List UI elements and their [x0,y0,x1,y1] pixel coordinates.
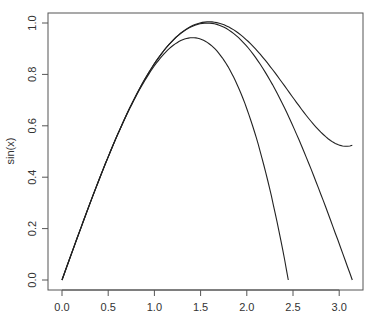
x-tick-label: 2.0 [239,301,254,313]
y-axis-label: sin(x) [4,138,16,165]
y-tick-label: 0.6 [26,118,38,133]
y-tick-label: 0.0 [26,272,38,287]
x-tick-label: 1.5 [193,301,208,313]
chart-canvas: 0.00.51.01.52.02.53.0 0.00.20.40.60.81.0… [0,0,373,328]
x-tick-label: 0.0 [54,301,69,313]
taylor-order3-curve [62,38,288,280]
y-tick-label: 0.8 [26,67,38,82]
x-tick-label: 3.0 [332,301,347,313]
y-tick-label: 1.0 [26,15,38,30]
y-axis: 0.00.20.40.60.81.0 [26,15,48,287]
x-tick-label: 2.5 [285,301,300,313]
y-tick-label: 0.2 [26,221,38,236]
x-tick-label: 1.0 [147,301,162,313]
sin-curve [62,23,352,280]
x-tick-label: 0.5 [101,301,116,313]
plot-frame [48,13,363,290]
taylor-order5-curve [62,22,352,280]
y-tick-label: 0.4 [26,170,38,185]
x-axis: 0.00.51.01.52.02.53.0 [54,290,346,313]
series-lines [62,22,352,280]
